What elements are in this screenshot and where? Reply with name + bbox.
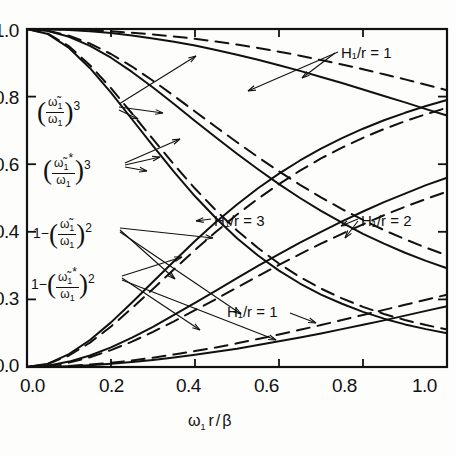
y-tick-label: 0.0 [0, 355, 19, 377]
x-tick-label: 0.8 [332, 375, 357, 397]
leader-h1-bottom [290, 313, 316, 323]
figure-container: 1.0 0.8 0.6 0.4 0.3 0.0 0.0 0.2 0.4 0.6 … [0, 0, 456, 457]
num-sub: 1 [69, 223, 74, 233]
x-axis-sub: 1 [201, 422, 206, 432]
x-axis-omega: ω [188, 412, 201, 429]
curve-label-ratio-cubed: (ω̃1ω1)3 [37, 96, 80, 129]
leader-ratio-cubed-c [119, 110, 138, 119]
leader-one-minus-a [120, 228, 213, 238]
annotation-h3: H₁/r = 3 [214, 212, 265, 229]
den-sub: 1 [69, 240, 74, 250]
paren-close: ) [76, 219, 85, 249]
leader-ratio-cubed-a [119, 56, 196, 104]
fraction-numerator: ω̃1* [56, 266, 79, 288]
x-axis-r: r [209, 412, 214, 429]
leader-one-minus-star-a [122, 257, 182, 276]
paren-close: ) [79, 269, 88, 299]
y-tick-label: 0.6 [0, 154, 19, 176]
num-omega: ω̃ [60, 217, 69, 231]
exponent: 3 [84, 158, 91, 172]
fraction: ω̃1ω1 [46, 96, 64, 129]
num-sub: 1 [57, 101, 62, 111]
y-tick-label: 0.8 [0, 87, 19, 109]
fraction-numerator: ω̃1* [52, 152, 75, 174]
paren-open: ( [47, 269, 56, 299]
curve-label-ratio-star-cubed: (ω̃1*ω1)3 [43, 152, 91, 190]
curve-label-one-minus-star-sq: 1−(ω̃1*ω1)2 [31, 266, 95, 304]
leader-lines [119, 52, 358, 340]
annotation-h2: H₁/r = 2 [361, 212, 412, 229]
exponent: 2 [88, 272, 95, 286]
den-sub: 1 [57, 118, 62, 128]
paren-open: ( [43, 155, 52, 185]
num-star: * [72, 265, 77, 279]
den-omega: ω [60, 234, 69, 248]
x-tick-label: 1.0 [412, 375, 437, 397]
paren-open: ( [37, 97, 46, 127]
exponent: 3 [73, 99, 80, 113]
num-star: * [68, 151, 73, 165]
x-axis-beta: β [222, 412, 231, 429]
den-sub: 1 [66, 179, 71, 189]
paren-close: ) [75, 155, 84, 185]
curve-label-one-minus-sq: 1−(ω̃1ω1)2 [33, 218, 92, 251]
exponent: 2 [85, 221, 92, 235]
fraction-denominator: ω1 [56, 288, 79, 304]
x-axis-slash: / [216, 412, 220, 429]
x-axis-label: ω1r/β [188, 412, 232, 432]
fraction-numerator: ω̃1 [58, 218, 76, 235]
y-tick-label: 1.0 [0, 20, 19, 42]
x-tick-label: 0.4 [176, 375, 201, 397]
paren-open: ( [49, 219, 58, 249]
fraction-denominator: ω1 [58, 235, 76, 251]
fraction-denominator: ω1 [52, 174, 75, 190]
fraction-denominator: ω1 [46, 113, 64, 129]
annotation-h1-top: H₁/r = 1 [341, 44, 392, 61]
fraction: ω̃1ω1 [58, 218, 76, 251]
leader-ratio-star-a [125, 139, 180, 163]
leader-h1-top-a [248, 52, 338, 91]
num-omega: ω̃ [54, 156, 63, 170]
den-omega: ω [60, 287, 69, 301]
label-lead: 1− [31, 276, 47, 292]
x-tick-label: 0.2 [99, 375, 124, 397]
den-sub: 1 [70, 293, 75, 303]
x-tick-label: 0.6 [254, 375, 279, 397]
label-lead: 1− [33, 225, 49, 241]
num-omega: ω̃ [58, 270, 67, 284]
y-tick-label: 0.4 [0, 221, 19, 243]
num-omega: ω̃ [48, 95, 57, 109]
fraction: ω̃1*ω1 [56, 266, 79, 304]
den-omega: ω [48, 112, 57, 126]
fraction-numerator: ω̃1 [46, 96, 64, 113]
x-tick-label: 0.0 [20, 375, 45, 397]
fraction: ω̃1*ω1 [52, 152, 75, 190]
den-omega: ω [56, 173, 65, 187]
curve-solid [27, 29, 447, 116]
y-tick-label: 0.3 [0, 288, 19, 310]
annotation-h1-bottom: H₁/r = 1 [227, 303, 278, 320]
